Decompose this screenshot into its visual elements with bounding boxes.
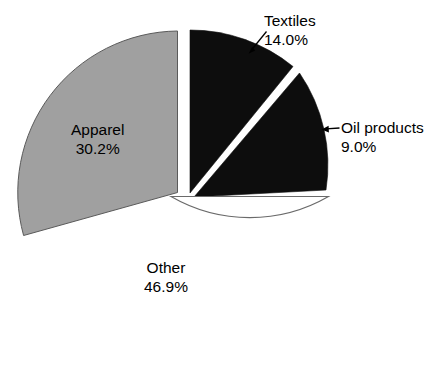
slice-label-other: Other 46.9% (144, 258, 188, 296)
slice-label-other-percent: 46.9% (144, 277, 188, 296)
slice-label-oil-products-percent: 9.0% (341, 137, 424, 156)
slice-label-textiles-name: Textiles (264, 11, 316, 30)
pie-chart-canvas (0, 0, 441, 373)
pie-slice-other[interactable] (171, 197, 329, 218)
slice-label-oil-products-name: Oil products (341, 118, 424, 137)
slice-label-apparel: Apparel 30.2% (71, 120, 124, 158)
slice-label-textiles-percent: 14.0% (264, 30, 316, 49)
slice-label-apparel-name: Apparel (71, 120, 124, 139)
pie-chart: Textiles 14.0% Oil products 9.0% Apparel… (0, 0, 441, 373)
slice-label-oil-products: Oil products 9.0% (341, 118, 424, 156)
slice-label-textiles: Textiles 14.0% (264, 11, 316, 49)
slice-label-apparel-percent: 30.2% (71, 139, 124, 158)
slice-label-other-name: Other (144, 258, 188, 277)
